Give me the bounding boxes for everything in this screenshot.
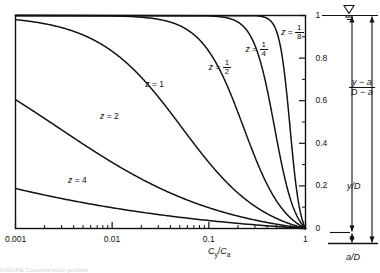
curve-label-fraction-3: 12 [223, 59, 231, 77]
x-tick-label-0: 0.001 [5, 235, 26, 244]
curve-label-var-0: z [68, 175, 72, 185]
x-tick-label-2: 0.1 [203, 235, 215, 244]
y-tick-label-1: 0.2 [316, 181, 328, 190]
curve-label-1: z = 2 [100, 112, 119, 121]
curve-label-var-5: z [281, 27, 285, 37]
depth-diagram [322, 6, 378, 244]
x-tick-label-3: 1 [303, 235, 308, 244]
curve-label-fraction-4: 14 [260, 41, 268, 59]
chart-svg [0, 0, 380, 273]
depth-ratio-label: y − a D − a [349, 78, 375, 98]
x-axis-title-sub2: a [227, 251, 231, 258]
y-tick-label-4: 0.8 [316, 54, 328, 63]
curve-label-var-4: z [246, 45, 250, 55]
depth-ratio-denominator: D − a [349, 87, 375, 97]
curve-label-2: z = 1 [145, 80, 164, 89]
a-over-D-label: a/D [346, 253, 360, 262]
figure-caption: FIGURE Concentration profiles [0, 267, 380, 273]
curve-label-var-1: z [100, 111, 104, 121]
figure-container: 0.001 0.01 0.1 1 0 0.2 0.4 0.6 0.8 1 Cy/… [0, 0, 380, 273]
x-axis-title: Cy/Ca [208, 247, 230, 258]
y-tick-label-0: 0 [316, 224, 321, 233]
depth-ratio-numerator: y − a [349, 78, 375, 87]
curve-label-var-3: z [209, 63, 213, 73]
x-tick-label-1: 0.01 [104, 235, 121, 244]
curve-1 [16, 100, 306, 229]
curve-0 [16, 188, 306, 228]
y-over-D-label: y/D [347, 182, 361, 191]
curve-label-fraction-5: 18 [295, 24, 303, 42]
curve-label-5: z = 18 [281, 24, 303, 42]
curve-label-3: z = 12 [209, 59, 231, 77]
y-tick-label-3: 0.6 [316, 96, 328, 105]
y-tick-label-2: 0.4 [316, 139, 328, 148]
y-axis-ticks [299, 16, 306, 229]
curve-label-var-2: z [145, 79, 149, 89]
curve-label-4: z = 14 [246, 41, 268, 59]
curve-label-0: z = 4 [68, 176, 87, 185]
y-tick-label-5: 1 [316, 11, 321, 20]
